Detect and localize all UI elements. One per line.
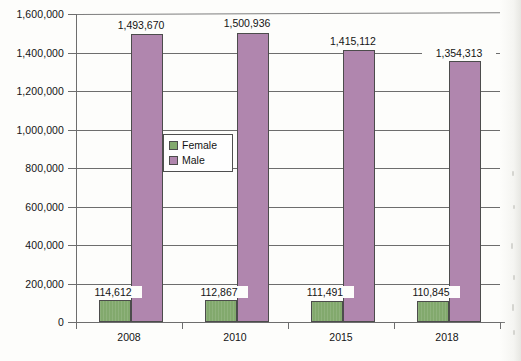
plot-area: Female Male [76,14,500,322]
y-tick-0 [68,322,76,323]
x-axis-label-2015: 2015 [288,331,394,343]
y-axis-label-0: 0 [0,316,64,328]
y-tick-1200000 [68,91,76,92]
y-tick-1000000 [68,130,76,131]
y-axis-line [76,14,77,323]
bar-male-2015 [343,50,375,323]
value-label-female-2015: 111,491 [296,286,354,298]
x-tick-boundary-2 [288,322,289,329]
y-axis-label-600000: 600,000 [0,201,64,213]
x-axis-line [68,322,505,323]
gridline-1600000 [76,12,500,15]
value-label-male-2008: 1,493,670 [104,19,178,31]
bar-female-2010 [205,300,237,322]
x-tick-boundary-0 [76,322,77,329]
value-label-female-2008: 114,612 [84,286,142,298]
value-label-female-2010: 112,867 [190,286,248,298]
chart-legend: Female Male [163,134,233,172]
y-axis-label-200000: 200,000 [0,278,64,290]
bar-chart-figure: Female Male 1,600,000 1,400,000 1,200,00… [0,0,521,361]
scan-speck [513,205,515,209]
y-tick-800000 [68,168,76,169]
scan-speck [511,243,513,249]
bar-female-2018 [417,301,449,322]
bar-female-2015 [311,301,343,323]
y-axis-label-800000: 800,000 [0,162,64,174]
value-label-female-2018: 110,845 [402,286,460,298]
scan-speck [513,275,515,280]
bar-male-2008 [131,34,163,322]
x-tick-boundary-4 [500,322,501,329]
x-axis-label-2008: 2008 [76,331,182,343]
scan-edge-shadow [500,0,521,361]
y-tick-600000 [68,207,76,208]
value-label-male-2018: 1,354,313 [422,47,496,59]
y-axis-label-400000: 400,000 [0,239,64,251]
scan-speck [513,330,515,335]
y-tick-400000 [68,245,76,246]
scan-speck [512,171,514,176]
bar-male-2010 [237,33,269,322]
y-tick-1400000 [68,53,76,54]
y-axis-label-1400000: 1,400,000 [0,47,64,59]
y-axis-label-1000000: 1,000,000 [0,124,64,136]
x-axis-label-2018: 2018 [394,331,500,343]
x-tick-boundary-3 [394,322,395,329]
y-axis-label-1200000: 1,200,000 [0,85,64,97]
value-label-male-2015: 1,415,112 [316,35,390,47]
y-tick-1600000 [68,14,76,15]
y-tick-200000 [68,284,76,285]
legend-label-female: Female [182,140,217,151]
legend-swatch-female-icon [169,141,178,150]
x-axis-label-2010: 2010 [182,331,288,343]
bar-male-2018 [449,61,481,322]
y-axis-label-1600000: 1,600,000 [0,8,64,20]
legend-label-male: Male [182,155,205,166]
legend-item-female: Female [169,138,232,153]
value-label-male-2010: 1,500,936 [210,17,284,29]
x-tick-boundary-1 [182,322,183,329]
scan-speck [512,304,514,311]
legend-swatch-male-icon [169,156,178,165]
legend-item-male: Male [169,153,232,168]
bar-female-2008 [99,300,131,322]
